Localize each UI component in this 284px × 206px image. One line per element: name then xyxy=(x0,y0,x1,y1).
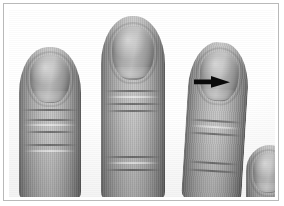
figure-frame xyxy=(3,3,279,201)
photo-grain xyxy=(9,9,275,197)
fingertips-photograph xyxy=(9,9,275,197)
